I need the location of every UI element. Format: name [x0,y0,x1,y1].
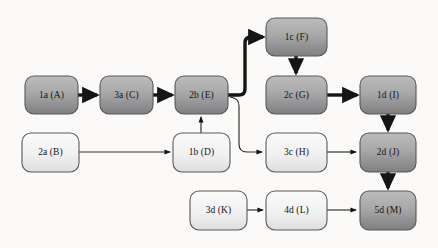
node-4d-L-label: 4d (L) [284,205,309,216]
nodes-layer: 1a (A) 3a (C) 2b (E) 1c (F) 2c (G) 1d (I [22,18,416,230]
edges-layer [78,37,388,210]
node-4d-L[interactable]: 4d (L) [266,191,327,230]
node-1b-D-label: 1b (D) [189,147,215,158]
node-1d-I-label: 1d (I) [377,90,399,101]
node-1a-A[interactable]: 1a (A) [25,76,78,114]
node-2d-J[interactable]: 2d (J) [360,133,416,172]
node-1d-I[interactable]: 1d (I) [360,76,416,114]
edge-E-to-H [230,97,262,152]
node-5d-M-label: 5d (M) [374,205,401,216]
node-2d-J-label: 2d (J) [377,147,400,158]
node-2b-E[interactable]: 2b (E) [175,76,228,114]
node-1b-D[interactable]: 1b (D) [173,133,230,172]
node-2c-G[interactable]: 2c (G) [266,76,327,114]
node-3c-H-label: 3c (H) [284,147,309,158]
node-3a-C[interactable]: 3a (C) [100,76,153,114]
node-2b-E-label: 2b (E) [189,90,214,101]
node-2a-B[interactable]: 2a (B) [22,133,79,172]
node-3a-C-label: 3a (C) [114,90,139,101]
node-1c-F[interactable]: 1c (F) [266,18,327,56]
node-1c-F-label: 1c (F) [285,32,309,43]
edge-E-to-F [228,37,263,95]
node-2a-B-label: 2a (B) [38,147,63,158]
node-3d-K[interactable]: 3d (K) [190,191,247,230]
node-1a-A-label: 1a (A) [39,90,64,101]
diagram-canvas: 1a (A) 3a (C) 2b (E) 1c (F) 2c (G) 1d (I [0,0,438,248]
node-5d-M[interactable]: 5d (M) [360,191,416,230]
node-3d-K-label: 3d (K) [206,205,232,216]
node-3c-H[interactable]: 3c (H) [266,133,327,172]
flowchart-svg: 1a (A) 3a (C) 2b (E) 1c (F) 2c (G) 1d (I [0,0,438,248]
node-2c-G-label: 2c (G) [284,90,309,101]
